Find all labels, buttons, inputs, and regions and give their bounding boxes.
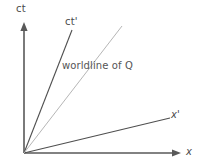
x-axis-label: x <box>186 147 192 157</box>
diagram-canvas <box>0 0 200 167</box>
worldline-of-q-line <box>24 26 122 153</box>
ct-axis-arrowhead <box>20 22 27 31</box>
ct-prime-axis-line <box>24 30 72 153</box>
spacetime-diagram-figure: ct ct' x x' worldline of Q <box>0 0 200 167</box>
x-axis <box>24 149 181 156</box>
ct-prime-axis-label: ct' <box>65 17 78 27</box>
x-prime-axis-label: x' <box>171 110 180 120</box>
ct-axis <box>20 22 27 153</box>
x-axis-arrowhead <box>172 149 181 156</box>
x-prime-axis-line <box>24 118 170 153</box>
worldline-of-q-label: worldline of Q <box>62 61 133 71</box>
ct-axis-label: ct <box>16 4 26 14</box>
